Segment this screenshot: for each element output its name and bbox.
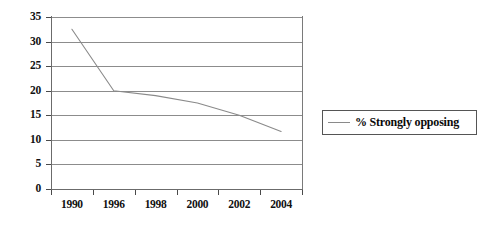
x-axis-tick	[260, 190, 261, 195]
x-axis-line	[51, 189, 303, 190]
y-axis-tick-label: 20	[5, 85, 41, 96]
x-axis-tick	[218, 190, 219, 195]
y-axis-tick-label: 0	[5, 183, 41, 194]
x-axis-tick	[302, 190, 303, 195]
gridline	[51, 42, 303, 43]
x-axis-tick	[51, 190, 52, 195]
gridline	[51, 164, 303, 165]
x-axis-tick	[93, 190, 94, 195]
x-axis-tick	[177, 190, 178, 195]
gridline	[51, 66, 303, 67]
y-axis-tick-label: 5	[5, 158, 41, 169]
y-axis-tick-label: 15	[5, 109, 41, 120]
y-axis-tick-label: 35	[5, 11, 41, 22]
x-axis-tick	[135, 190, 136, 195]
plot-right-border	[302, 16, 303, 190]
x-axis-tick-label: 2004	[255, 198, 307, 210]
y-axis-tick-label: 10	[5, 134, 41, 145]
gridline	[51, 91, 303, 92]
line-chart: 05101520253035 199019961998200020022004 …	[0, 0, 488, 250]
chart-legend[interactable]: % Strongly opposing	[322, 110, 477, 135]
gridline	[51, 140, 303, 141]
y-axis-tick-label: 25	[5, 60, 41, 71]
legend-item-label: % Strongly opposing	[355, 115, 459, 130]
series-line-strongly-opposing	[72, 29, 281, 131]
y-axis-tick-label: 30	[5, 36, 41, 47]
gridline	[51, 17, 303, 18]
gridline	[51, 115, 303, 116]
y-axis-line	[51, 16, 52, 190]
line-swatch-icon	[328, 118, 350, 127]
